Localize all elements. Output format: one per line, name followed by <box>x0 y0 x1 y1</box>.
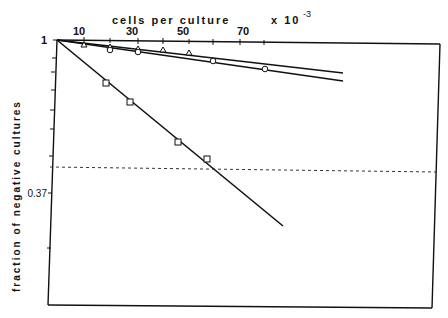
x-axis-exp: -3 <box>303 9 311 19</box>
y-tick-label-037: 0.37 <box>28 188 48 199</box>
y-axis-title: fraction of negative cultures <box>11 100 22 292</box>
triangle-fit-line <box>57 40 343 73</box>
y-tick-label-1: 1 <box>41 34 47 46</box>
x-axis-title: cells per culture <box>112 14 230 26</box>
survival-chart: 10 30 50 70 cells per culture x 10 -3 1 … <box>0 0 448 318</box>
x-tick-label-50: 50 <box>177 25 189 37</box>
reference-line-dashed <box>50 167 436 172</box>
x-tick-label-70: 70 <box>237 25 249 37</box>
x-axis-exp-base: x 10 <box>271 14 300 26</box>
fit-lines <box>57 40 343 226</box>
x-tick-label-10: 10 <box>73 25 85 37</box>
x-tick-label-30: 30 <box>126 25 138 37</box>
